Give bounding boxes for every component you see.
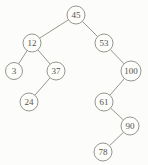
tree-node-90: 90 bbox=[121, 117, 139, 135]
binary-tree-diagram: 45125333710024619078 bbox=[0, 0, 148, 165]
tree-node-label-90: 90 bbox=[126, 121, 136, 131]
tree-node-label-45: 45 bbox=[72, 10, 82, 20]
tree-node-37: 37 bbox=[47, 62, 65, 80]
tree-edge-53-100 bbox=[110, 49, 124, 63]
tree-node-61: 61 bbox=[95, 93, 113, 111]
tree-node-label-78: 78 bbox=[99, 147, 109, 157]
tree-node-label-61: 61 bbox=[100, 97, 109, 107]
tree-node-53: 53 bbox=[95, 34, 113, 52]
tree-node-label-53: 53 bbox=[100, 38, 110, 48]
tree-node-100: 100 bbox=[121, 61, 141, 81]
tree-node-3: 3 bbox=[6, 63, 23, 80]
tree-node-45: 45 bbox=[67, 6, 85, 24]
tree-node-label-3: 3 bbox=[12, 66, 17, 76]
tree-node-78: 78 bbox=[94, 143, 112, 161]
tree-node-label-12: 12 bbox=[28, 38, 37, 48]
tree-edge-12-3 bbox=[19, 51, 28, 64]
tree-edge-45-53 bbox=[82, 21, 97, 36]
tree-edge-45-12 bbox=[40, 20, 69, 38]
tree-edge-37-24 bbox=[35, 78, 50, 95]
tree-edge-90-78 bbox=[109, 132, 123, 146]
tree-node-12: 12 bbox=[23, 34, 41, 52]
tree-node-label-37: 37 bbox=[52, 66, 62, 76]
tree-node-24: 24 bbox=[20, 93, 38, 111]
tree-edge-12-37 bbox=[38, 50, 50, 64]
tree-edge-100-61 bbox=[110, 79, 125, 96]
tree-canvas: 45125333710024619078 bbox=[0, 0, 148, 165]
tree-node-label-100: 100 bbox=[124, 66, 138, 76]
tree-node-label-24: 24 bbox=[25, 97, 35, 107]
tree-edge-61-90 bbox=[111, 108, 124, 120]
